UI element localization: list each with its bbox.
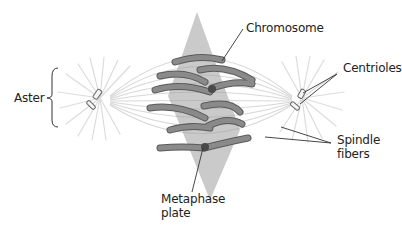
label-metaphase-plate-1: Metaphase bbox=[161, 192, 225, 206]
label-aster: Aster bbox=[14, 91, 44, 105]
label-spindle-fibers-2: fibers bbox=[337, 147, 370, 161]
label-chromosome: Chromosome bbox=[246, 21, 324, 35]
aster-brace bbox=[47, 68, 58, 127]
label-spindle-fibers-1: Spindle bbox=[337, 133, 380, 147]
right-aster bbox=[280, 56, 344, 142]
label-centrioles: Centrioles bbox=[343, 61, 402, 75]
label-metaphase-plate-2: plate bbox=[161, 206, 190, 220]
